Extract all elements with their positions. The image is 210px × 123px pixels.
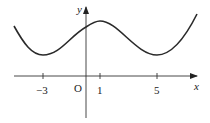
tick-label-neg3: −3 <box>36 84 48 96</box>
tick-label-5: 5 <box>154 84 160 96</box>
origin-label: O <box>74 82 82 94</box>
function-graph: y x O −3 1 5 <box>0 0 210 123</box>
graph-canvas: y x O −3 1 5 <box>0 0 210 123</box>
tick-label-1: 1 <box>97 84 103 96</box>
x-axis-label: x <box>193 80 199 92</box>
function-curve <box>14 14 197 55</box>
y-axis-label: y <box>76 3 82 15</box>
